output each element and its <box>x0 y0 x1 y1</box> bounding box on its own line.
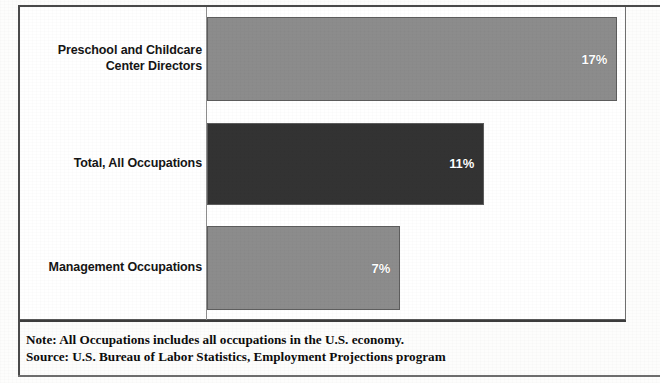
bar-value-label: 11% <box>449 156 483 171</box>
note-text: Note: All Occupations includes all occup… <box>26 331 626 348</box>
category-label-line-1: Management Occupations <box>49 260 202 274</box>
bar-value-label: 7% <box>372 261 399 276</box>
source-text: Source: U.S. Bureau of Labor Statistics,… <box>26 348 626 365</box>
category-label-line-1: Preschool and Childcare <box>58 43 202 57</box>
figure-border-bottom <box>18 375 660 377</box>
category-label-total-all-occupations: Total, All Occupations <box>20 156 202 172</box>
chart-row: Total, All Occupations 11% <box>20 111 626 216</box>
category-label-preschool-and-childcare-center-directors: Preschool and Childcare Center Directors <box>20 43 202 74</box>
category-label-management-occupations: Management Occupations <box>20 260 202 276</box>
bar-preschool-and-childcare-center-directors: 17% <box>207 17 617 101</box>
chart-row: Management Occupations 7% <box>20 216 626 320</box>
footer-notes: Note: All Occupations includes all occup… <box>26 331 626 366</box>
bar-chart-figure: Preschool and Childcare Center Directors… <box>0 0 660 383</box>
bar-total-all-occupations: 11% <box>207 123 484 205</box>
footer-divider <box>20 320 626 322</box>
bar-management-occupations: 7% <box>207 226 400 310</box>
chart-row: Preschool and Childcare Center Directors… <box>20 7 626 111</box>
category-label-line-2: Center Directors <box>106 59 202 73</box>
bar-value-label: 17% <box>582 52 616 67</box>
category-label-line-1: Total, All Occupations <box>74 156 202 170</box>
